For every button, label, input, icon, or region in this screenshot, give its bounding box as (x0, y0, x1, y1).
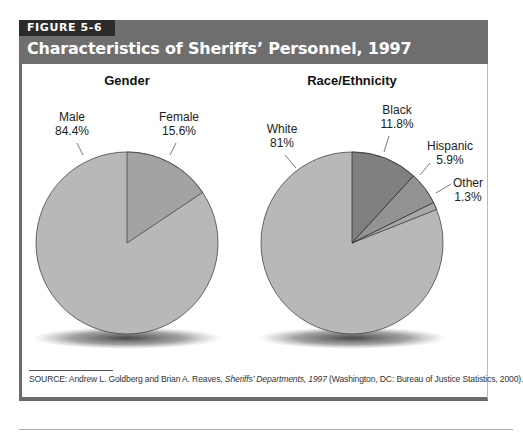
page-divider (19, 429, 513, 430)
black-label: Black11.8% (377, 103, 417, 131)
other-label: Other1.3% (451, 176, 485, 204)
white-leader (285, 155, 296, 168)
gender-pie (36, 152, 218, 334)
male-leader (77, 143, 83, 155)
source-note: SOURCE: Andrew L. Goldberg and Brian A. … (29, 374, 523, 384)
hispanic-label: Hispanic5.9% (425, 139, 475, 167)
source-rule (29, 370, 113, 371)
female-label: Female15.6% (156, 110, 202, 138)
white-label: White81% (262, 122, 302, 150)
black-leader (384, 136, 389, 152)
male-label: Male84.4% (52, 110, 92, 138)
female-leader (170, 143, 176, 155)
race-pie (261, 152, 443, 334)
other-leader (436, 184, 451, 193)
